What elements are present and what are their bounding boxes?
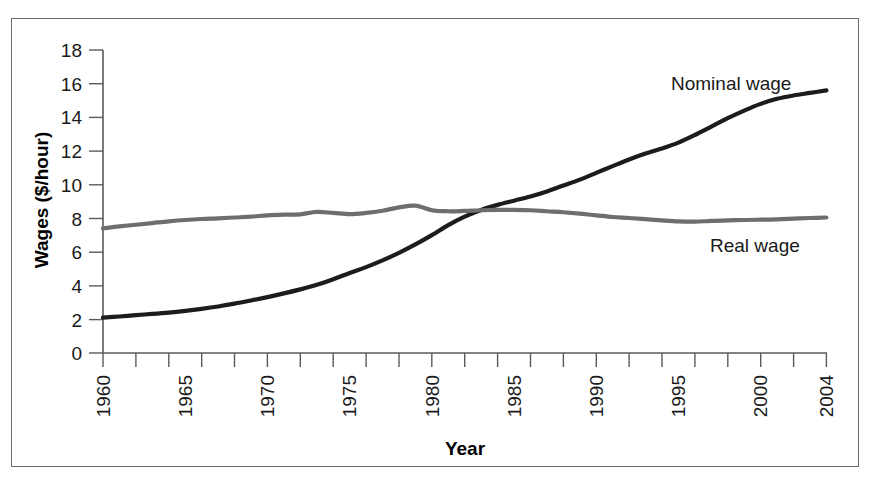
y-tick-label: 0 [71,343,82,364]
x-tick-label: 2004 [816,375,837,418]
x-tick-label: 1970 [257,375,278,417]
x-tick-labels: 1960 1965 1970 1975 1980 1985 1990 1995 … [93,375,837,418]
x-tick-label: 1985 [504,375,525,417]
y-tick-labels: 18 16 14 12 10 8 6 4 2 0 [61,40,83,364]
x-tick-label: 1980 [422,375,443,417]
y-tick-marks [89,50,103,353]
y-tick-label: 2 [71,310,82,331]
y-tick-label: 4 [71,276,82,297]
y-tick-label: 12 [61,141,82,162]
y-tick-label: 6 [71,242,82,263]
series-annotation-real-wage: Real wage [710,235,800,256]
series-annotation-nominal-wage: Nominal wage [671,73,791,94]
series-line-nominal-wage [103,90,826,317]
y-tick-label: 8 [71,209,82,230]
x-tick-label: 1990 [586,375,607,417]
x-tick-marks [103,353,826,367]
x-tick-label: 1995 [668,375,689,417]
y-tick-label: 14 [61,107,83,128]
y-axis-title: Wages ($/hour) [31,132,52,269]
x-tick-label: 1965 [175,375,196,417]
y-tick-label: 18 [61,40,82,61]
x-tick-label: 2000 [750,375,771,417]
figure: 18 16 14 12 10 8 6 4 2 0 1960 1965 1970 … [0,0,873,485]
y-tick-label: 16 [61,74,82,95]
line-chart: 18 16 14 12 10 8 6 4 2 0 1960 1965 1970 … [0,0,873,485]
x-axis-title: Year [445,438,486,459]
x-tick-label: 1975 [339,375,360,417]
x-tick-label: 1960 [93,375,114,417]
y-tick-label: 10 [61,175,82,196]
